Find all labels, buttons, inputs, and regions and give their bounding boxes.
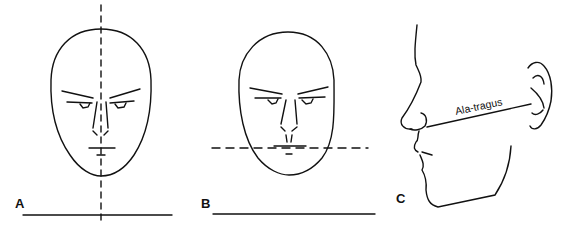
panel-b-label: B xyxy=(201,196,210,211)
panel-c-label: C xyxy=(396,191,406,206)
ala-tragus-annotation: Ala-tragus xyxy=(454,95,503,117)
panel-b-face xyxy=(239,32,334,175)
figure-canvas: A B C Ala-tragus xyxy=(0,0,570,227)
panel-a-label: A xyxy=(15,196,25,211)
panel-c-ear xyxy=(528,62,552,129)
